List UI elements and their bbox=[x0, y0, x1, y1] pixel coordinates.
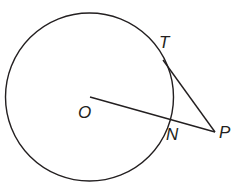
label-p: P bbox=[219, 123, 231, 142]
segment-tp bbox=[163, 60, 215, 132]
geometry-diagram: T O N P bbox=[0, 0, 239, 192]
segment-op bbox=[90, 97, 215, 132]
circle-o bbox=[6, 13, 174, 181]
label-o: O bbox=[78, 103, 91, 122]
label-n: N bbox=[166, 125, 179, 144]
label-t: T bbox=[159, 33, 171, 52]
